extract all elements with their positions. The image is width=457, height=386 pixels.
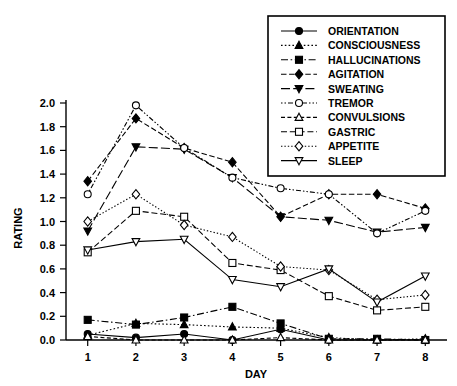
legend-label: APPETITE xyxy=(328,140,379,152)
data-point-filled-circle xyxy=(296,28,303,35)
legend-label: GASTRIC xyxy=(328,126,376,138)
data-point-open-square xyxy=(325,293,332,300)
x-tick-label: 3 xyxy=(181,351,187,363)
data-point-open-circle xyxy=(229,174,236,181)
data-point-open-circle xyxy=(325,191,332,198)
data-point-open-square xyxy=(296,128,303,135)
data-point-open-circle xyxy=(277,185,284,192)
legend-label: CONSCIOUSNESS xyxy=(328,39,420,51)
data-point-open-square xyxy=(422,303,429,310)
legend-label: HALLUCINATIONS xyxy=(328,54,421,66)
data-point-open-square xyxy=(374,307,381,314)
y-tick-label: 1.0 xyxy=(40,216,55,228)
y-tick-label: 1.2 xyxy=(40,192,55,204)
data-point-open-circle xyxy=(84,191,91,198)
x-tick-label: 6 xyxy=(326,351,332,363)
legend: ORIENTATIONCONSCIOUSNESSHALLUCINATIONSAG… xyxy=(268,16,445,176)
y-tick-label: 1.4 xyxy=(40,168,56,180)
y-tick-label: 0.0 xyxy=(40,334,55,346)
x-tick-label: 1 xyxy=(85,351,91,363)
data-point-filled-square xyxy=(84,316,91,323)
y-tick-label: 0.6 xyxy=(40,263,55,275)
y-axis-title: RATING xyxy=(12,207,24,248)
y-tick-label: 2.0 xyxy=(40,97,55,109)
data-point-filled-square xyxy=(277,320,284,327)
legend-label: ORIENTATION xyxy=(328,25,399,37)
data-point-open-square xyxy=(229,259,236,266)
legend-label: SLEEP xyxy=(328,155,362,167)
y-tick-label: 0.8 xyxy=(40,239,55,251)
y-tick-label: 1.8 xyxy=(40,121,55,133)
data-point-filled-square xyxy=(296,56,303,63)
x-axis-title: DAY xyxy=(245,368,268,380)
data-point-open-circle xyxy=(296,100,303,107)
legend-label: TREMOR xyxy=(328,97,374,109)
data-point-open-circle xyxy=(374,230,381,237)
x-tick-label: 8 xyxy=(422,351,428,363)
x-tick-label: 4 xyxy=(229,351,236,363)
data-point-filled-square xyxy=(132,321,139,328)
y-tick-label: 0.2 xyxy=(40,310,55,322)
data-point-open-circle xyxy=(422,207,429,214)
data-point-filled-square xyxy=(181,314,188,321)
data-point-open-circle xyxy=(132,102,139,109)
data-point-open-square xyxy=(132,207,139,214)
legend-label: CONVULSIONS xyxy=(328,111,405,123)
x-tick-label: 2 xyxy=(133,351,139,363)
y-tick-label: 1.6 xyxy=(40,144,55,156)
legend-label: AGITATION xyxy=(328,68,384,80)
data-point-filled-square xyxy=(229,303,236,310)
y-tick-label: 0.4 xyxy=(40,287,56,299)
legend-label: SWEATING xyxy=(328,83,384,95)
x-tick-label: 5 xyxy=(278,351,284,363)
x-tick-label: 7 xyxy=(374,351,380,363)
chart-root: 0.00.20.40.60.81.01.21.41.61.82.0 123456… xyxy=(0,0,457,386)
data-point-open-square xyxy=(181,213,188,220)
line-chart: 0.00.20.40.60.81.01.21.41.61.82.0 123456… xyxy=(0,0,457,386)
data-point-open-circle xyxy=(181,145,188,152)
